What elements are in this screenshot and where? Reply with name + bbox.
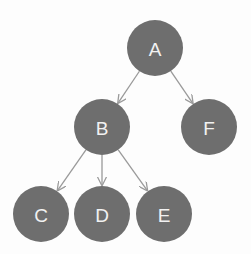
node-label: D (95, 205, 109, 226)
node-label: C (34, 205, 48, 226)
node-b: B (74, 99, 130, 155)
edge-b-e (118, 150, 147, 191)
nodes-group: ABFCDE (13, 20, 237, 242)
edge-a-f (171, 71, 193, 103)
tree-diagram: ABFCDE (0, 0, 251, 254)
edge-a-b (118, 71, 139, 103)
node-label: B (96, 118, 109, 139)
node-d: D (74, 186, 130, 242)
node-f: F (181, 99, 237, 155)
node-e: E (136, 186, 192, 242)
node-label: F (203, 118, 215, 139)
node-label: E (158, 205, 171, 226)
node-a: A (127, 20, 183, 76)
node-label: A (149, 39, 162, 60)
edge-b-c (58, 150, 86, 190)
node-c: C (13, 186, 69, 242)
